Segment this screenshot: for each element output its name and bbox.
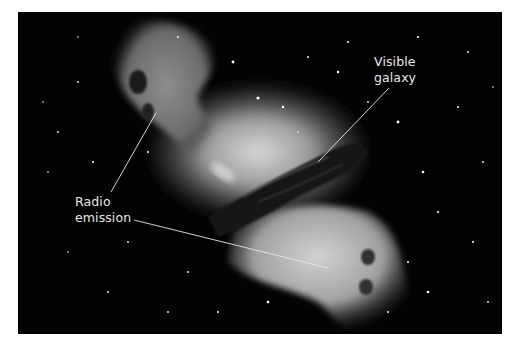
galaxy-image-panel: Radio emission Visible galaxy xyxy=(18,12,502,334)
visible-galaxy-label-line1: Visible xyxy=(374,54,416,70)
radio-emission-label-line1: Radio xyxy=(75,194,131,210)
lobe-dark-spot xyxy=(129,70,147,94)
visible-galaxy-label-line2: galaxy xyxy=(374,70,416,86)
lobe-dark-spot xyxy=(361,249,375,265)
lobe-dark-spot xyxy=(359,279,373,295)
radio-emission-label: Radio emission xyxy=(75,194,131,226)
radio-lobe-lower xyxy=(228,205,409,334)
lobe-dark-spot xyxy=(142,103,154,121)
radio-emission-label-line2: emission xyxy=(75,210,131,226)
visible-galaxy-label: Visible galaxy xyxy=(374,54,416,86)
galaxy-illustration xyxy=(18,12,502,334)
